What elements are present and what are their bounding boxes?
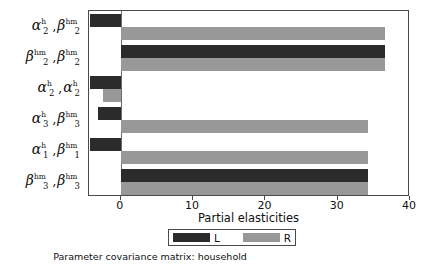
bar-r-6 [121,182,368,195]
plot-inner [89,11,408,195]
bar-r-1 [121,27,385,40]
legend-label-r: R [284,232,291,244]
y-axis-label-6: βhm3,βhm3 [26,165,83,196]
legend-swatch-l-icon [173,233,210,242]
legend-swatch-r-icon [243,233,280,242]
legend-label-l: L [214,232,220,244]
bar-l-2 [121,45,385,58]
bar-l-3 [90,76,121,89]
bar-r-4 [121,120,368,133]
y-axis-label-1: αh2,βhm2 [32,10,83,41]
chart-legend: L R [168,229,296,246]
legend-entry-l: L [173,232,220,244]
plot-area [88,10,409,196]
chart-caption: Parameter covariance matrix: household [0,251,300,262]
x-axis-title: Partial elasticities [88,211,409,225]
chart-figure: αh2,βhm2βhm2,βhm2αh2,αh2αh3,βhm3αh1,βhm1… [0,0,431,268]
bar-l-1 [90,14,121,27]
y-axis-labels: αh2,βhm2βhm2,βhm2αh2,αh2αh3,βhm3αh1,βhm1… [0,10,86,196]
bar-r-2 [121,58,385,71]
bar-r-5 [121,151,368,164]
bar-l-6 [121,169,368,182]
legend-entry-r: R [243,232,291,244]
y-axis-label-5: αh1,βhm1 [32,134,83,165]
bar-l-4 [98,107,121,120]
bar-l-5 [90,138,121,151]
y-axis-label-2: βhm2,βhm2 [26,41,83,72]
bar-r-3 [103,89,121,102]
y-axis-label-4: αh3,βhm3 [32,103,83,134]
y-axis-label-3: αh2,αh2 [38,72,83,103]
